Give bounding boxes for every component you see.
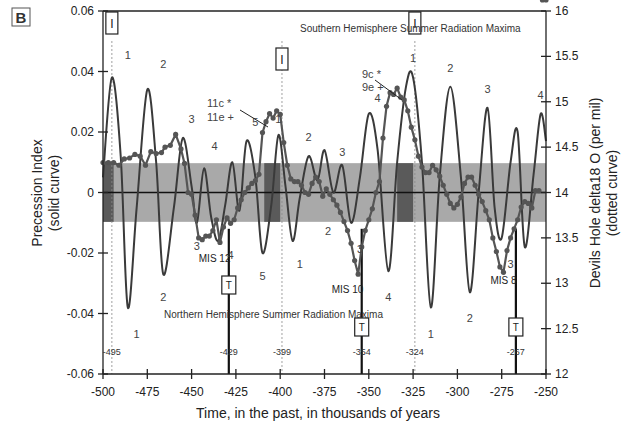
- svg-text:9e +: 9e +: [362, 81, 384, 93]
- devils-hole-point: [338, 210, 343, 215]
- right-axis-title: Devils Hole delta18 O (per mil) (dotted …: [587, 98, 620, 289]
- event-year-label: -429: [220, 347, 238, 357]
- event-year-label: -495: [103, 347, 121, 357]
- right-tick-label: 13: [555, 276, 569, 290]
- x-tick-label: -400: [268, 385, 292, 399]
- trough-number: 3: [357, 243, 363, 255]
- devils-hole-point: [437, 174, 442, 179]
- devils-hole-point: [221, 224, 226, 229]
- devils-hole-point: [207, 233, 212, 238]
- devils-hole-point: [246, 185, 251, 190]
- right-tick-label: 16: [555, 4, 569, 18]
- devils-hole-point: [476, 192, 481, 197]
- devils-hole-point: [519, 204, 524, 209]
- southern-hemisphere-label: Southern Hemisphere Summer Radiation Max…: [300, 23, 521, 34]
- devils-hole-point: [380, 135, 385, 140]
- devils-hole-point: [373, 190, 378, 195]
- termination-marker: T: [509, 318, 523, 336]
- devils-hole-point: [210, 228, 215, 233]
- left-axis-title: Precession Index (solid curve): [29, 139, 62, 246]
- termination-marker: T: [355, 318, 369, 336]
- devils-hole-point: [239, 197, 244, 202]
- trough-number: 1: [297, 258, 303, 270]
- trough-number: 1: [134, 328, 140, 340]
- right-tick-label: 15: [555, 95, 569, 109]
- devils-hole-point: [352, 258, 357, 263]
- devils-hole-point: [267, 111, 272, 116]
- devils-hole-point: [224, 215, 229, 220]
- devils-hole-point: [469, 174, 474, 179]
- peak-number: 1: [275, 113, 281, 125]
- devils-hole-point: [106, 160, 111, 165]
- x-tick-label: -250: [534, 385, 558, 399]
- x-tick-label: -425: [224, 385, 248, 399]
- right-tick-label: 13.5: [555, 231, 579, 245]
- devils-hole-point: [193, 213, 198, 218]
- devils-hole-point: [313, 174, 318, 179]
- devils-hole-point: [260, 130, 265, 135]
- chart-canvas: B IIITTT-495-429-399-354-324-26712345123…: [0, 0, 634, 437]
- event-year-label: -324: [406, 347, 424, 357]
- devils-hole-point: [441, 183, 446, 188]
- x-tick-label: -300: [445, 385, 469, 399]
- svg-text:B: B: [16, 9, 27, 26]
- devils-hole-point: [494, 249, 499, 254]
- trough-number: 2: [467, 312, 473, 324]
- x-tick-label: -375: [312, 385, 336, 399]
- devils-hole-point: [345, 228, 350, 233]
- devils-hole-point: [341, 219, 346, 224]
- left-tick-label: 0.02: [71, 125, 95, 139]
- devils-hole-point: [402, 97, 407, 102]
- devils-hole-point: [317, 179, 322, 184]
- peak-number: 3: [484, 83, 490, 95]
- svg-text:11e +: 11e +: [207, 111, 234, 123]
- event-year-label: -399: [273, 347, 291, 357]
- left-tick-label: 0.06: [71, 4, 95, 18]
- peak-number: 4: [375, 92, 381, 104]
- devils-hole-point: [331, 197, 336, 202]
- devils-hole-point: [334, 203, 339, 208]
- trough-number: 3: [194, 240, 200, 252]
- devils-hole-point: [320, 194, 325, 199]
- devils-hole-point: [462, 181, 467, 186]
- devils-hole-point: [515, 217, 520, 222]
- devils-hole-point: [162, 145, 167, 150]
- devils-hole-point: [217, 240, 222, 245]
- svg-text:T: T: [226, 280, 232, 291]
- devils-hole-point: [178, 146, 183, 151]
- trough-number: 2: [160, 291, 166, 303]
- devils-hole-point: [405, 108, 410, 113]
- interglacial-marker: I: [276, 48, 288, 70]
- trough-number: 4: [385, 291, 391, 303]
- trough-number: 1: [428, 328, 434, 340]
- left-tick-label: 0.04: [71, 65, 95, 79]
- right-tick-label: 12: [555, 367, 569, 381]
- devils-hole-point: [409, 125, 414, 130]
- devils-hole-point: [285, 163, 290, 168]
- mis-label: MIS 8: [490, 275, 517, 286]
- devils-hole-point: [430, 163, 435, 168]
- mis-label: MIS 10: [332, 284, 364, 295]
- data-curves: [100, 0, 548, 308]
- devils-hole-point: [508, 235, 513, 240]
- devils-hole-point: [363, 228, 368, 233]
- devils-hole-point: [377, 179, 382, 184]
- devils-hole-point: [168, 143, 173, 148]
- trough-number: 5: [259, 270, 265, 282]
- peak-number: 4: [538, 89, 544, 101]
- devils-hole-point: [173, 132, 178, 137]
- devils-hole-point: [444, 192, 449, 197]
- devils-hole-point: [366, 217, 371, 222]
- devils-hole-point: [512, 226, 517, 231]
- svg-text:T: T: [359, 322, 365, 333]
- devils-hole-point: [497, 264, 502, 269]
- devils-hole-point: [455, 202, 460, 207]
- devils-hole-point: [182, 161, 187, 166]
- devils-hole-point: [490, 235, 495, 240]
- svg-text:9c *: 9c *: [362, 68, 382, 80]
- stage-label: 11c *11e +: [207, 97, 268, 127]
- mis-label: MIS 12: [199, 253, 231, 264]
- devils-hole-point: [143, 163, 148, 168]
- devils-hole-point: [395, 86, 400, 91]
- devils-hole-point: [426, 170, 431, 175]
